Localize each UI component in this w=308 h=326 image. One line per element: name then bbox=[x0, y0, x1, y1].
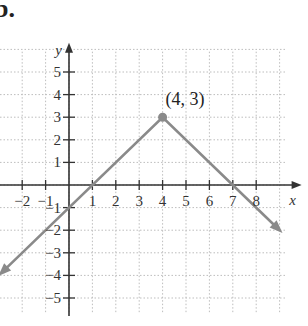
x-tick-label: 4 bbox=[159, 193, 167, 209]
y-tick-label: 4 bbox=[54, 87, 62, 103]
y-tick-label: 2 bbox=[54, 132, 62, 148]
x-tick-label: 8 bbox=[252, 193, 260, 209]
vertex-label: (4, 3) bbox=[166, 89, 205, 110]
coordinate-plane: −2−11234567854321−1−2−3−4−5yx (4, 3) bbox=[0, 0, 308, 326]
x-tick-label: 2 bbox=[112, 193, 120, 209]
vertex-point bbox=[158, 113, 167, 122]
x-tick-label: 6 bbox=[206, 193, 214, 209]
vertex-annotation: (4, 3) bbox=[158, 89, 205, 122]
x-tick-label: 7 bbox=[229, 193, 237, 209]
y-tick-label: 1 bbox=[54, 154, 62, 170]
x-tick-label: 3 bbox=[135, 193, 143, 209]
y-axis-label: y bbox=[53, 42, 62, 58]
x-tick-label: 5 bbox=[182, 193, 190, 209]
tick-labels: −2−11234567854321−1−2−3−4−5yx bbox=[14, 42, 296, 306]
y-tick-label: −1 bbox=[45, 200, 61, 216]
y-tick-label: −4 bbox=[45, 267, 61, 283]
y-tick-label: 5 bbox=[54, 64, 62, 80]
y-tick-label: −2 bbox=[45, 222, 61, 238]
x-axis-arrow-icon bbox=[292, 181, 302, 189]
y-tick-label: 3 bbox=[54, 109, 62, 125]
x-axis-label: x bbox=[288, 192, 296, 208]
y-axis-arrow-icon bbox=[65, 43, 73, 53]
x-tick-label: −2 bbox=[14, 193, 30, 209]
x-tick-label: 1 bbox=[89, 193, 97, 209]
grid bbox=[0, 49, 287, 313]
y-tick-label: −5 bbox=[45, 290, 61, 306]
y-tick-label: −3 bbox=[45, 245, 61, 261]
